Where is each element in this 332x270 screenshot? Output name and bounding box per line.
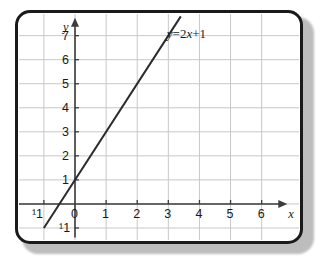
equation-annotation: y=2x+1 [167, 27, 206, 40]
equation-equals: = [173, 26, 180, 41]
x-tick-label: 5 [227, 208, 234, 221]
y-tick-label: 7 [62, 30, 69, 43]
function-line [44, 16, 181, 228]
x-tick-label: 0 [71, 208, 78, 221]
x-tick-label: 3 [164, 208, 171, 221]
equation-plus: + [192, 26, 199, 41]
x-tick-label: ¹1 [32, 208, 43, 221]
y-tick-label: 2 [62, 150, 69, 163]
x-tick-label: 1 [102, 208, 109, 221]
x-axis-arrowhead [278, 200, 287, 208]
x-tick-label: 4 [195, 208, 202, 221]
coordinate-plane-svg [19, 14, 299, 240]
gridlines [19, 14, 299, 240]
y-tick-label: 1 [62, 174, 69, 187]
equation-intercept: 1 [200, 26, 207, 41]
y-tick-label: 6 [62, 54, 69, 67]
plot-area: y x y=2x+1 ¹10123456 ¹11234567 [19, 14, 299, 240]
y-tick-label: 5 [62, 78, 69, 91]
x-tick-label: 6 [258, 208, 265, 221]
x-axis-label: x [288, 208, 294, 221]
graph-figure: y x y=2x+1 ¹10123456 ¹11234567 [0, 0, 332, 270]
y-axis-arrowhead [71, 18, 79, 27]
y-tick-label: 3 [62, 126, 69, 139]
x-tick-label: 2 [133, 208, 140, 221]
y-tick-label: ¹1 [59, 222, 70, 235]
line-series [44, 16, 181, 228]
y-tick-label: 4 [62, 102, 69, 115]
